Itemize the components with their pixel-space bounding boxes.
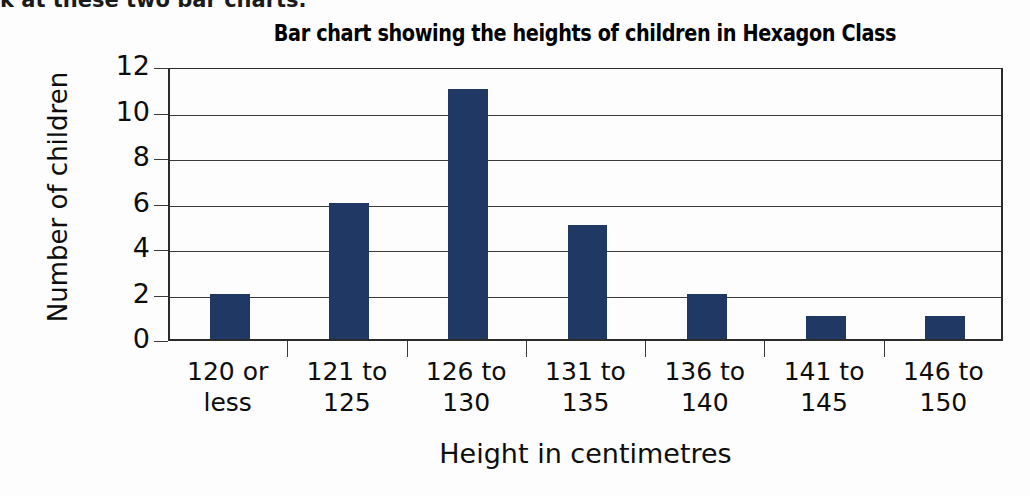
- x-axis-tick-label: 120 orless: [168, 356, 287, 418]
- plot-area: [168, 68, 1003, 341]
- x-axis-separator-tick: [287, 341, 288, 357]
- gridline: [170, 206, 1001, 207]
- x-axis-tick-label: 126 to130: [407, 356, 526, 418]
- x-axis-tick-label-line: 120 or: [168, 356, 287, 387]
- x-axis-tick-label: 121 to125: [287, 356, 406, 418]
- y-axis-tick-label: 4: [86, 232, 150, 263]
- x-axis-tick-label: 131 to135: [526, 356, 645, 418]
- x-axis-separator-tick: [526, 341, 527, 357]
- chart-page: k at these two bar charts. Bar chart sho…: [0, 0, 1030, 496]
- x-axis-tick-label-line: 131 to: [526, 356, 645, 387]
- y-axis-tick-mark: [154, 250, 168, 251]
- bar: [448, 89, 488, 339]
- x-axis-tick-label-line: 145: [764, 387, 883, 418]
- x-axis-separator-tick: [407, 341, 408, 357]
- gridline: [170, 115, 1001, 116]
- x-axis-tick-label: 136 to140: [645, 356, 764, 418]
- x-axis-tick-label-line: less: [168, 387, 287, 418]
- bar: [925, 316, 965, 339]
- x-axis-tick-label: 141 to145: [764, 356, 883, 418]
- x-axis-tick-label-line: 125: [287, 387, 406, 418]
- x-axis-tick-label-line: 136 to: [645, 356, 764, 387]
- y-axis-tick-label: 6: [86, 187, 150, 218]
- x-axis-separator-tick: [884, 341, 885, 357]
- bar: [568, 225, 608, 339]
- x-axis-separator-tick: [764, 341, 765, 357]
- y-axis-tick-mark: [154, 341, 168, 342]
- y-axis-tick-label: 8: [86, 141, 150, 172]
- y-axis-tick-label: 0: [86, 323, 150, 354]
- y-axis-tick-label: 10: [86, 96, 150, 127]
- y-axis-tick-mark: [154, 159, 168, 160]
- y-axis-tick-mark: [154, 296, 168, 297]
- x-axis-tick-label-line: 130: [407, 387, 526, 418]
- x-axis-tick-label: 146 to150: [884, 356, 1003, 418]
- bar: [210, 294, 250, 340]
- x-axis-title: Height in centimetres: [168, 438, 1003, 469]
- x-axis-tick-label-line: 140: [645, 387, 764, 418]
- x-axis-tick-label-line: 141 to: [764, 356, 883, 387]
- y-axis-tick-mark: [154, 114, 168, 115]
- y-axis-tick-label: 12: [86, 50, 150, 81]
- y-axis-tick-label: 2: [86, 278, 150, 309]
- bar: [329, 203, 369, 340]
- x-axis-tick-label-line: 146 to: [884, 356, 1003, 387]
- x-axis-tick-label-line: 121 to: [287, 356, 406, 387]
- chart-title: Bar chart showing the heights of childre…: [180, 20, 989, 46]
- y-axis-tick-mark: [154, 68, 168, 69]
- x-axis-tick-label-line: 135: [526, 387, 645, 418]
- bar: [687, 294, 727, 340]
- x-axis-separator-tick: [645, 341, 646, 357]
- x-axis-tick-label-line: 126 to: [407, 356, 526, 387]
- bar: [806, 316, 846, 339]
- x-axis-tick-label-line: 150: [884, 387, 1003, 418]
- cut-off-instruction-text: k at these two bar charts.: [0, 0, 400, 13]
- y-axis-title: Number of children: [43, 47, 73, 347]
- gridline: [170, 160, 1001, 161]
- y-axis-tick-mark: [154, 205, 168, 206]
